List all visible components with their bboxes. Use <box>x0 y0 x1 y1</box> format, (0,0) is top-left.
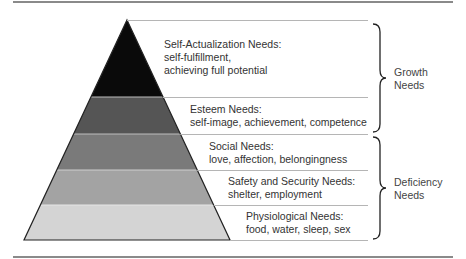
level-label-physiological: Physiological Needs: food, water, sleep,… <box>246 210 350 236</box>
growth-brace-icon <box>373 24 386 132</box>
level-desc: shelter, employment <box>228 188 355 201</box>
deficiency-brace-icon <box>373 137 386 239</box>
level-desc: food, water, sleep, sex <box>246 223 350 236</box>
level-title: Self-Actualization Needs: <box>164 38 281 51</box>
pyramid-layer-physiological <box>24 205 230 240</box>
level-title: Esteem Needs: <box>190 103 367 116</box>
level-label-self-actualization: Self-Actualization Needs: self-fulfillme… <box>164 38 281 77</box>
level-title: Safety and Security Needs: <box>228 175 355 188</box>
level-desc: achieving full potential <box>164 64 281 77</box>
pyramid-layer-social <box>57 134 197 170</box>
level-title: Physiological Needs: <box>246 210 350 223</box>
pyramid-layer-esteem <box>74 97 181 134</box>
level-desc: love, affection, belongingness <box>209 153 347 166</box>
level-desc: self-image, achievement, competence <box>190 116 367 129</box>
level-label-social: Social Needs: love, affection, belonging… <box>209 140 347 166</box>
level-label-safety: Safety and Security Needs: shelter, empl… <box>228 175 355 201</box>
pyramid-layer-safety <box>40 170 213 205</box>
level-label-esteem: Esteem Needs: self-image, achievement, c… <box>190 103 367 129</box>
pyramid-layer-self-actualization <box>91 20 163 97</box>
level-title: Social Needs: <box>209 140 347 153</box>
group-label-growth: Growth Needs <box>394 66 428 92</box>
level-desc: self-fulfillment, <box>164 51 281 64</box>
group-label-deficiency: Deficiency Needs <box>394 176 442 202</box>
